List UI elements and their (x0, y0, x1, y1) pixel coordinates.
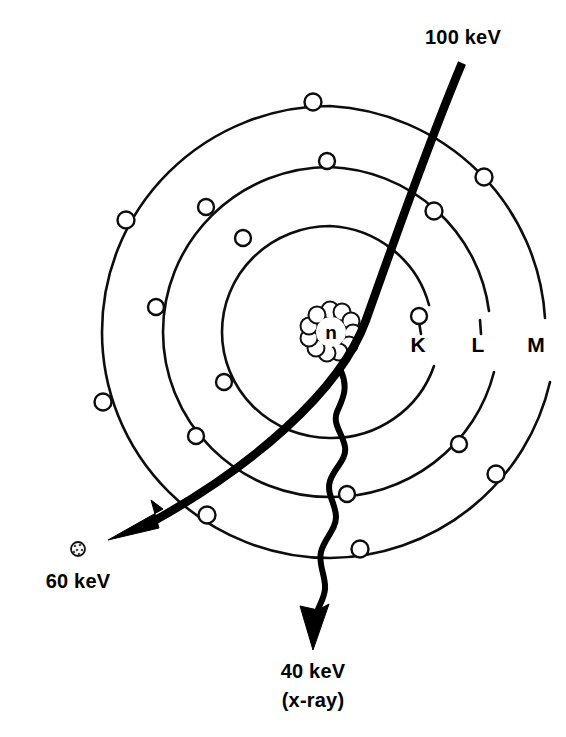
electron-l-6 (451, 436, 467, 452)
ejected-electron-stipple (76, 549, 79, 552)
ejected-electron-marker (71, 542, 85, 556)
electron-l-1 (319, 153, 335, 169)
electron-l-4 (188, 428, 204, 444)
electron-k-1 (411, 308, 427, 324)
scattered-electron-energy-label: 60 keV (46, 570, 111, 592)
electron-group (95, 94, 505, 558)
electron-m-5 (352, 541, 369, 558)
electron-m-4 (199, 507, 216, 524)
electron-m-3 (95, 394, 112, 411)
electron-m-8 (426, 203, 443, 220)
shell-label-L: L (472, 333, 485, 356)
electron-m-2 (118, 212, 135, 229)
electron-m-7 (476, 169, 493, 186)
shell-tick-L (480, 320, 481, 334)
ejected-electron-stipple (74, 545, 77, 548)
electron-k-2 (216, 374, 232, 390)
electron-l-2 (198, 199, 214, 215)
label-group: 100 keV K L M 60 keV 40 keV (x-ray) (46, 26, 545, 711)
scattered-photon-type-label: (x-ray) (282, 689, 345, 711)
scattered-photon-energy-label: 40 keV (281, 660, 346, 682)
ejected-electron-stipple (79, 544, 82, 547)
incident-beam-arrowhead (108, 500, 163, 540)
incident-beam-line (152, 63, 462, 522)
scattered-photon-arrowhead (300, 604, 329, 650)
ejected-electron-stipple (78, 553, 81, 556)
electron-l-3 (148, 299, 164, 315)
shell-label-M: M (527, 333, 545, 356)
electron-l-5 (339, 486, 355, 502)
electron-k-3 (235, 230, 251, 246)
electron-m-6 (488, 466, 505, 483)
ejected-electron-stipple (81, 549, 84, 552)
nucleus-symbol-label: n (325, 322, 337, 343)
shell-label-K: K (410, 333, 425, 356)
atom-diagram-canvas: n 100 keV K L M (0, 0, 566, 737)
compton-scatter-diagram: n 100 keV K L M (0, 0, 566, 737)
incident-energy-label: 100 keV (425, 26, 501, 48)
ejected-electron-stipple (73, 551, 76, 554)
electron-m-1 (305, 94, 322, 111)
